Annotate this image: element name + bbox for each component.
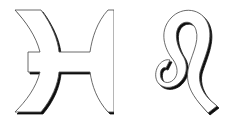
- leo-symbol: [144, 0, 228, 124]
- pisces-icon: [0, 0, 114, 124]
- pisces-symbol: [0, 0, 114, 124]
- leo-icon: [144, 0, 228, 124]
